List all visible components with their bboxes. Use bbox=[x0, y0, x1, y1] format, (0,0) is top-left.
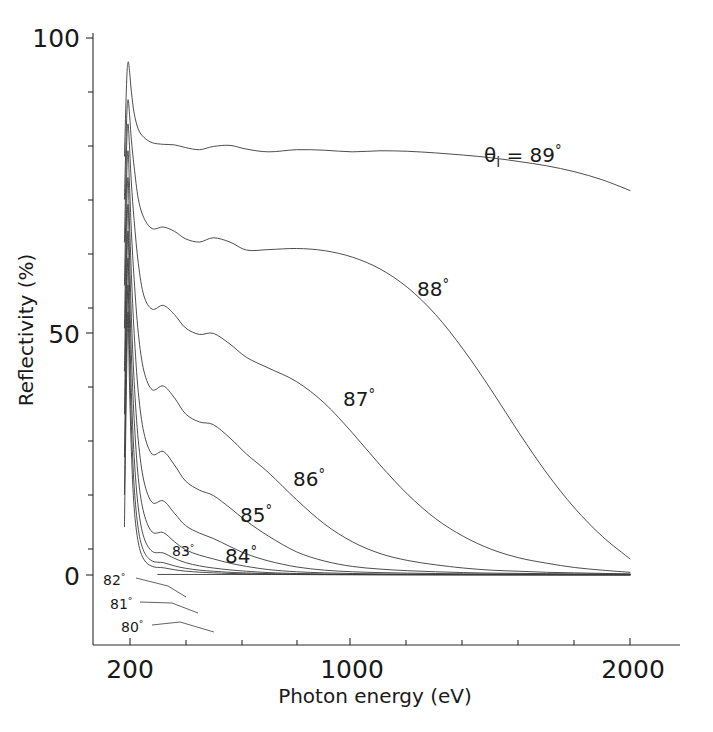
y-tick-marks bbox=[86, 38, 93, 575]
plot-area: 100 50 0 200 1000 2000 Photon energy (eV… bbox=[0, 0, 713, 732]
curve-group bbox=[124, 62, 630, 575]
y-tick-label-100: 100 bbox=[32, 24, 80, 53]
curve-label-89: θi = 89° bbox=[484, 143, 562, 171]
curve-label-84: 84° bbox=[225, 544, 257, 569]
curve-label-82: 82° bbox=[103, 571, 125, 589]
reflectivity-curve-88 bbox=[124, 100, 630, 559]
reflectivity-curve-89 bbox=[124, 62, 630, 191]
reflectivity-figure: 100 50 0 200 1000 2000 Photon energy (eV… bbox=[0, 0, 713, 732]
curve-label-86: 86° bbox=[293, 467, 325, 492]
reflectivity-curve-80 bbox=[124, 312, 630, 575]
x-tick-label-1000: 1000 bbox=[320, 655, 384, 684]
curve-label-87: 87° bbox=[343, 387, 375, 412]
x-axis-title: Photon energy (eV) bbox=[278, 684, 472, 708]
x-tick-label-2000: 2000 bbox=[601, 655, 665, 684]
curve-label-85: 85° bbox=[240, 503, 272, 528]
reflectivity-curve-83 bbox=[124, 231, 630, 575]
curve-label-80: 80° bbox=[121, 618, 143, 636]
x-tick-label-200: 200 bbox=[106, 655, 154, 684]
reflectivity-curve-85 bbox=[124, 177, 630, 574]
reflectivity-curve-87 bbox=[124, 124, 630, 572]
curve-label-81: 81° bbox=[110, 595, 132, 613]
reflectivity-curve-81 bbox=[124, 285, 630, 575]
x-tick-marks bbox=[130, 638, 630, 645]
y-tick-label-0: 0 bbox=[64, 562, 80, 591]
curve-label-88: 88° bbox=[417, 277, 449, 302]
reflectivity-curve-84 bbox=[124, 204, 630, 574]
reflectivity-curve-86 bbox=[124, 151, 630, 574]
y-tick-label-50: 50 bbox=[48, 320, 80, 349]
curve-annotations: θi = 89° 88° 87° 86° 85° 84° 83° 82° bbox=[103, 143, 562, 636]
y-axis-title: Reflectivity (%) bbox=[14, 254, 38, 407]
curve-label-83: 83° bbox=[172, 542, 194, 560]
reflectivity-curve-82 bbox=[124, 258, 630, 575]
label-leader-lines bbox=[136, 578, 214, 632]
